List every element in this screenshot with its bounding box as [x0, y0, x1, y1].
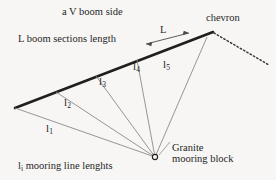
figure-title: a V boom side [62, 6, 123, 17]
granite-label-line2: mooring block [172, 153, 234, 164]
mooring-line-2-label: l2 [64, 96, 71, 110]
diagram-canvas [0, 0, 276, 180]
mooring-line-3-subscript: 3 [102, 80, 106, 89]
mooring-line-4-label: l4 [133, 60, 140, 74]
mooring-line-5-label: l5 [163, 58, 170, 72]
mooring-line-4-subscript: 4 [136, 65, 140, 74]
v-boom-diagram: a V boom side chevron L boom sections le… [0, 0, 276, 180]
chevron-dotted-continuation [214, 33, 269, 65]
mooring-line-3-label: l3 [99, 75, 106, 89]
mooring-line-lengths-text: mooring line lenghts [23, 160, 113, 171]
mooring-line-1-label: l1 [46, 122, 53, 136]
chevron-label: chevron [206, 12, 240, 23]
mooring-line-5 [155, 37, 207, 157]
granite-mooring-block-node [152, 154, 157, 159]
mooring-line-1-subscript: 1 [49, 127, 53, 136]
mooring-line-lengths-caption: li mooring line lenghts [18, 160, 113, 173]
granite-mooring-block-label: Granite mooring block [172, 142, 234, 164]
mooring-line-1 [15, 108, 155, 157]
section-length-symbol-label: L [160, 24, 166, 35]
mooring-line-4 [137, 60, 155, 157]
mooring-line-2-subscript: 2 [67, 101, 71, 110]
granite-label-line1: Granite [172, 142, 204, 153]
boom-sections-length-label: L boom sections length [18, 33, 116, 44]
mooring-line-5-subscript: 5 [166, 63, 170, 72]
